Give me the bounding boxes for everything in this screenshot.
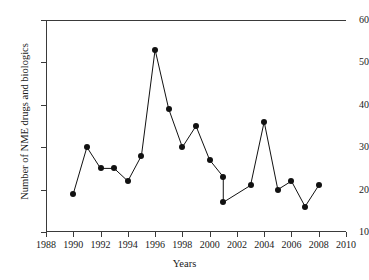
x-tick-2006 bbox=[291, 232, 292, 237]
plot-top-rule bbox=[46, 20, 346, 21]
data-point bbox=[166, 106, 172, 112]
data-point bbox=[302, 204, 308, 210]
x-axis-title: Years bbox=[0, 258, 369, 269]
data-point bbox=[152, 47, 158, 53]
data-point bbox=[275, 187, 281, 193]
data-point bbox=[261, 119, 267, 125]
y-tick-label-20: 20 bbox=[343, 185, 369, 195]
y-tick-20 bbox=[41, 190, 46, 191]
data-point bbox=[248, 182, 254, 188]
y-tick-label-50: 50 bbox=[343, 57, 369, 67]
x-tick-2004 bbox=[264, 232, 265, 237]
data-point bbox=[207, 157, 213, 163]
y-tick-30 bbox=[41, 147, 46, 148]
y-tick-60 bbox=[41, 20, 46, 21]
x-tick-1998 bbox=[182, 232, 183, 237]
x-tick-2010 bbox=[346, 232, 347, 237]
x-tick-2000 bbox=[210, 232, 211, 237]
data-point bbox=[193, 123, 199, 129]
x-tick-1988 bbox=[46, 232, 47, 237]
y-tick-50 bbox=[41, 62, 46, 63]
data-point bbox=[125, 178, 131, 184]
line-chart: 102030405060 198819901992199419961998200… bbox=[0, 0, 369, 280]
y-tick-label-30: 30 bbox=[343, 142, 369, 152]
y-tick-label-40: 40 bbox=[343, 100, 369, 110]
x-tick-1992 bbox=[101, 232, 102, 237]
x-tick-1994 bbox=[128, 232, 129, 237]
x-tick-2008 bbox=[319, 232, 320, 237]
x-tick-1996 bbox=[155, 232, 156, 237]
x-tick-2002 bbox=[237, 232, 238, 237]
y-tick-label-60: 60 bbox=[343, 15, 369, 25]
x-tick-label-2010: 2010 bbox=[326, 239, 366, 250]
y-tick-40 bbox=[41, 105, 46, 106]
y-axis-title: Number of NME drugs and biologics bbox=[19, 2, 30, 242]
x-tick-1990 bbox=[73, 232, 74, 237]
data-point bbox=[98, 165, 104, 171]
